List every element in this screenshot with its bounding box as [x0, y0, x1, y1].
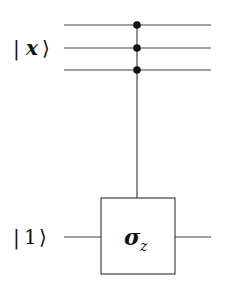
input-x-bar: |	[13, 36, 20, 61]
quantum-circuit: σ z | x ⟩ | 1 ⟩	[0, 0, 227, 283]
gate-symbol: σ	[124, 224, 141, 250]
input-1-bar: |	[13, 225, 20, 250]
input-x-close: ⟩	[42, 36, 50, 60]
control-dot-1	[133, 21, 141, 29]
input-x-var: x	[25, 36, 39, 60]
control-dot-3	[133, 66, 141, 74]
gate-subscript: z	[139, 238, 148, 254]
input-1-var: 1	[24, 225, 37, 249]
input-1-close: ⟩	[39, 225, 47, 249]
control-dot-2	[133, 44, 141, 52]
